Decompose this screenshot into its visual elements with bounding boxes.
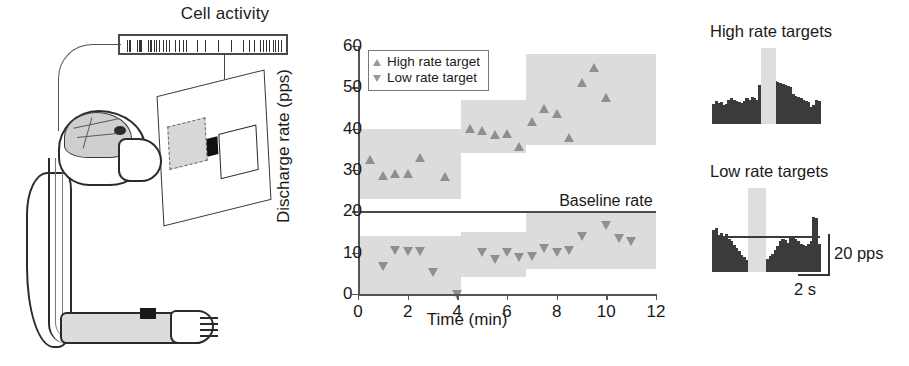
- spike-tick: [156, 40, 157, 52]
- arm-recording-device: [140, 308, 156, 319]
- data-point-low-rate: [552, 248, 562, 257]
- legend-label-high-rate: High rate target: [387, 54, 480, 70]
- y-axis-tick-label: 30: [343, 160, 346, 180]
- data-point-high-rate: [502, 129, 512, 138]
- spike-tick: [269, 40, 270, 52]
- data-point-high-rate: [440, 172, 450, 181]
- monkey-muzzle: [118, 138, 162, 182]
- condition-band: [526, 211, 656, 269]
- monkey-finger: [200, 335, 218, 337]
- y-axis-tick-label: 20: [343, 201, 346, 221]
- spike-tick: [243, 40, 244, 52]
- high-rate-psth-title: High rate targets: [710, 22, 832, 41]
- x-axis-tick-label: 4: [453, 302, 462, 322]
- low-rate-psth-title: Low rate targets: [710, 162, 828, 181]
- spike-tick: [130, 40, 131, 52]
- data-point-high-rate: [539, 104, 549, 113]
- baseline-rate-label: Baseline rate: [559, 192, 652, 210]
- cell-activity-label: Cell activity: [140, 4, 310, 24]
- screen-cursor: [206, 136, 218, 157]
- spike-tick: [148, 40, 149, 52]
- data-point-low-rate: [502, 248, 512, 257]
- spike-tick: [141, 40, 142, 52]
- monkey-hand: [170, 310, 214, 344]
- x-axis-tick-label: 0: [353, 302, 362, 322]
- spike-tick: [183, 40, 184, 52]
- spike-tick: [266, 40, 267, 52]
- data-point-low-rate: [514, 253, 524, 262]
- psth-bar: [817, 244, 820, 272]
- spike-tick: [166, 40, 167, 52]
- spike-tick: [151, 40, 152, 52]
- y-axis-tick-label: 10: [343, 243, 346, 263]
- horizontal-scale-bar: [798, 274, 830, 276]
- spike-tick: [218, 40, 219, 52]
- x-axis-tick-label: 10: [597, 302, 616, 322]
- spike-tick: [249, 40, 250, 52]
- low-rate-psth-histogram: [712, 214, 820, 272]
- spike-tick: [163, 40, 164, 52]
- data-point-high-rate: [365, 155, 375, 164]
- x-axis-tick: [457, 294, 458, 300]
- spike-tick: [281, 40, 282, 52]
- data-point-low-rate: [378, 262, 388, 271]
- high-rate-psth-histogram: [712, 74, 820, 124]
- data-point-low-rate: [564, 246, 574, 255]
- spike-tick: [260, 40, 261, 52]
- spike-tick: [159, 40, 160, 52]
- data-point-high-rate: [415, 153, 425, 162]
- vertical-scale-label: 20 pps: [834, 244, 884, 263]
- psth-panel: High rate targets Low rate targets 20 pp…: [690, 22, 909, 366]
- spike-tick: [154, 40, 155, 52]
- legend-item-high-rate: High rate target: [373, 54, 480, 70]
- data-point-high-rate: [601, 93, 611, 102]
- data-point-high-rate: [403, 169, 413, 178]
- data-point-low-rate: [477, 248, 487, 257]
- spike-tick: [137, 40, 138, 52]
- monkey-eye: [114, 126, 126, 135]
- data-point-high-rate: [378, 171, 388, 180]
- brain-sulcus-3: [83, 117, 93, 148]
- triangle-up-icon: [373, 59, 381, 66]
- horizontal-scale-label: 2 s: [794, 280, 816, 299]
- x-axis-tick: [358, 294, 359, 300]
- psth-bar: [817, 101, 820, 124]
- data-point-low-rate: [626, 237, 636, 246]
- spike-tick: [278, 40, 279, 52]
- plot-area: Baseline rate 0102030405060 024681012 Hi…: [358, 46, 656, 294]
- x-axis-tick-label: 8: [552, 302, 561, 322]
- spike-tick: [263, 40, 264, 52]
- y-axis-tick-label: 60: [343, 36, 346, 56]
- condition-band: [358, 129, 461, 199]
- y-axis-tick-label: 50: [343, 77, 346, 97]
- chart-legend: High rate target Low rate target: [368, 50, 489, 91]
- data-point-low-rate: [601, 221, 611, 230]
- vertical-scale-bar: [828, 234, 830, 274]
- x-axis-tick: [408, 294, 409, 300]
- experiment-schematic-panel: Cell activity: [0, 0, 310, 366]
- spike-tick: [205, 40, 206, 52]
- monkey-finger: [200, 317, 218, 319]
- cue-period-shading: [748, 188, 766, 272]
- x-axis-tick-label: 2: [403, 302, 412, 322]
- data-point-high-rate: [564, 133, 574, 142]
- condition-band: [358, 236, 461, 294]
- data-point-low-rate: [490, 255, 500, 264]
- data-point-high-rate: [527, 117, 537, 126]
- x-axis-tick-label: 6: [502, 302, 511, 322]
- monkey-finger: [200, 329, 218, 331]
- data-point-high-rate: [477, 126, 487, 135]
- data-point-low-rate: [539, 244, 549, 253]
- data-point-high-rate: [390, 169, 400, 178]
- spike-tick: [175, 40, 176, 52]
- high-rate-target-zone: [218, 124, 258, 179]
- data-point-high-rate: [577, 78, 587, 87]
- spike-tick: [254, 40, 255, 52]
- data-point-high-rate: [465, 124, 475, 133]
- legend-item-low-rate: Low rate target: [373, 70, 480, 86]
- y-axis-tick-label: 40: [343, 119, 346, 139]
- triangle-down-icon: [373, 75, 381, 82]
- data-point-low-rate: [403, 247, 413, 256]
- data-point-low-rate: [577, 232, 587, 241]
- data-point-high-rate: [490, 130, 500, 139]
